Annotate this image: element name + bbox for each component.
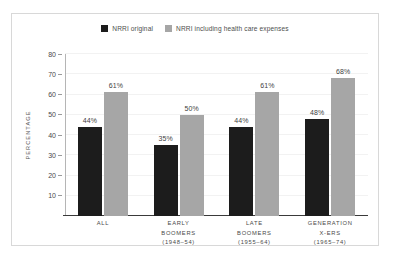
- x-axis-label: GENERATIONX-ERS(1965–74): [292, 219, 368, 248]
- bar-rect: [255, 92, 279, 216]
- y-tick-mark: [58, 74, 62, 75]
- bar-value-label: 48%: [310, 109, 324, 116]
- y-tick-label: 70: [38, 70, 56, 77]
- axis-area: 1020304050607080 44%61%35%50%44%61%48%68…: [65, 54, 368, 216]
- bar[interactable]: 48%: [305, 119, 329, 216]
- x-axis-label-line: EARLY: [141, 219, 217, 229]
- x-axis-label-line: BOOMERS: [217, 229, 293, 239]
- bar-value-label: 50%: [185, 105, 199, 112]
- bar-rect: [104, 92, 128, 216]
- bar-groups: 44%61%35%50%44%61%48%68%: [65, 54, 368, 216]
- y-tick-mark: [58, 135, 62, 136]
- chart-figure: NRRI original NRRI including health care…: [0, 0, 394, 265]
- bar-rect: [229, 127, 253, 216]
- bar-rect: [180, 115, 204, 216]
- legend-swatch-icon: [165, 25, 172, 32]
- x-axis-label-line: X-ERS: [292, 229, 368, 239]
- x-axis-label: LATEBOOMERS(1955–64): [217, 219, 293, 248]
- y-tick-mark: [58, 155, 62, 156]
- y-tick-label: 20: [38, 172, 56, 179]
- bar[interactable]: 50%: [180, 115, 204, 216]
- bar[interactable]: 35%: [154, 145, 178, 216]
- y-axis-title: PERCENTAGE: [22, 54, 34, 216]
- legend-swatch-icon: [101, 25, 108, 32]
- x-axis-label: ALL: [65, 219, 141, 248]
- bar-value-label: 61%: [260, 82, 274, 89]
- bar-rect: [305, 119, 329, 216]
- legend-entry-nrri-including-health-care-expenses: NRRI including health care expenses: [165, 25, 289, 32]
- bar-value-label: 44%: [83, 117, 97, 124]
- x-axis-label-line: LATE: [217, 219, 293, 229]
- bar-group: 44%61%: [65, 54, 141, 216]
- legend-entry-nrri-original: NRRI original: [101, 25, 153, 32]
- bar-group: 35%50%: [141, 54, 217, 216]
- bar-group: 48%68%: [292, 54, 368, 216]
- x-axis-label-line: ALL: [65, 219, 141, 229]
- bar-rect: [154, 145, 178, 216]
- plot-area: PERCENTAGE 1020304050607080 44%61%35%50%…: [38, 54, 368, 216]
- y-tick-mark: [58, 195, 62, 196]
- x-axis-label-line: GENERATION: [292, 219, 368, 229]
- x-axis-label: EARLYBOOMERS(1948–54): [141, 219, 217, 248]
- bar-value-label: 35%: [159, 135, 173, 142]
- bar-value-label: 61%: [109, 82, 123, 89]
- legend-label: NRRI including health care expenses: [176, 25, 289, 32]
- bar[interactable]: 61%: [104, 92, 128, 216]
- y-tick-mark: [58, 175, 62, 176]
- x-axis-label-line: BOOMERS: [141, 229, 217, 239]
- legend-label: NRRI original: [112, 25, 153, 32]
- y-tick-mark: [58, 114, 62, 115]
- bar[interactable]: 44%: [78, 127, 102, 216]
- chart-legend: NRRI original NRRI including health care…: [12, 25, 378, 32]
- y-tick-label: 60: [38, 91, 56, 98]
- y-tick-label: 50: [38, 111, 56, 118]
- bar-rect: [78, 127, 102, 216]
- bar-value-label: 68%: [336, 68, 350, 75]
- y-tick-mark: [58, 54, 62, 55]
- x-axis-label-line: (1948–54): [141, 238, 217, 248]
- x-axis-labels: ALLEARLYBOOMERS(1948–54)LATEBOOMERS(1955…: [65, 219, 368, 248]
- x-axis-label-line: (1955–64): [217, 238, 293, 248]
- chart-frame: NRRI original NRRI including health care…: [11, 13, 379, 246]
- bar-value-label: 44%: [234, 117, 248, 124]
- y-tick-mark: [58, 94, 62, 95]
- bar-group: 44%61%: [217, 54, 293, 216]
- bar-rect: [331, 78, 355, 216]
- y-tick-label: 80: [38, 50, 56, 57]
- y-tick-label: 40: [38, 131, 56, 138]
- x-axis-label-line: (1965–74): [292, 238, 368, 248]
- y-tick-label: 30: [38, 151, 56, 158]
- bar[interactable]: 68%: [331, 78, 355, 216]
- bar[interactable]: 44%: [229, 127, 253, 216]
- bar[interactable]: 61%: [255, 92, 279, 216]
- y-tick-label: 10: [38, 192, 56, 199]
